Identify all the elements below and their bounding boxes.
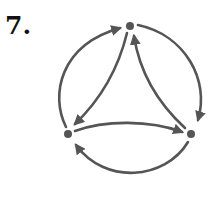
- node-top: [126, 22, 134, 30]
- edge-right-to-left-outer: [76, 142, 188, 173]
- node-left: [64, 130, 72, 138]
- directed-graph-diagram: [0, 0, 216, 222]
- node-right: [187, 130, 195, 138]
- edge-right-to-top-inner: [134, 36, 185, 128]
- edge-left-to-right-inner: [75, 123, 182, 132]
- edge-top-to-right-outer: [138, 25, 201, 120]
- figure-canvas: 7.: [0, 0, 216, 222]
